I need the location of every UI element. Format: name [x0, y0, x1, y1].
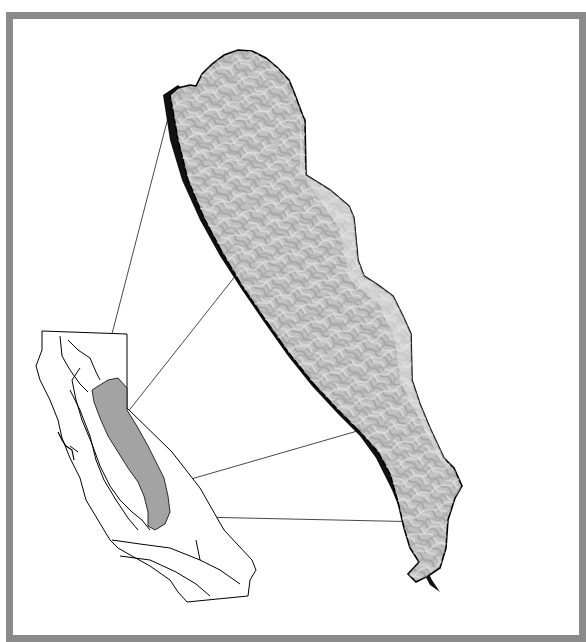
california-locator-map [36, 331, 256, 602]
inset-relief-map [170, 50, 462, 582]
